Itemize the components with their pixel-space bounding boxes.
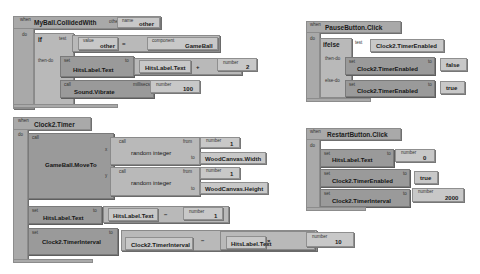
clocktimer-do-bar: do [13, 130, 28, 260]
number-value: 10 [335, 239, 342, 245]
getter-text: HitsLabel.Text [145, 65, 186, 71]
number-label: number [206, 138, 221, 143]
set-target: HitsLabel.Text [73, 67, 114, 73]
restartclick-event-block[interactable]: when RestartButton.Click [306, 128, 401, 140]
value-label: value [83, 38, 94, 43]
to-label: to [403, 191, 407, 196]
pauseclick-footer [306, 98, 371, 102]
number-1-block[interactable]: number 1 [183, 207, 223, 220]
timerinterval-getter-block[interactable]: Clock2.TimerInterval [125, 237, 193, 250]
set-timerinterval-block[interactable]: set Clock2.TimerInterval to [28, 228, 118, 255]
y-label: y [105, 173, 107, 178]
y-from-number-block[interactable]: number 1 [200, 167, 240, 179]
true-block[interactable]: true [414, 171, 438, 184]
value-other-block[interactable]: value other [78, 37, 118, 50]
pauseclick-do-bar: do [306, 33, 320, 101]
number-value: 1 [214, 213, 217, 219]
x-from-number-block[interactable]: number 1 [200, 137, 240, 148]
set-target: HitsLabel.Text [332, 157, 373, 163]
name-label: name [122, 18, 133, 23]
set-target: Clock2.TimerInterval [332, 198, 391, 204]
subtract-operator: − [201, 238, 205, 244]
equals-operator: = [122, 41, 126, 47]
call-vibrate-block[interactable]: call Sound.Vibrate millisecs [60, 80, 154, 98]
number-label: number [189, 209, 204, 214]
param-name-value: other [139, 21, 154, 27]
getter-text: Clock2.TimerInterval [131, 242, 190, 248]
random-integer-y-block[interactable]: call random integer from to [110, 167, 200, 196]
number-value: 100 [183, 86, 193, 92]
when-label: when [310, 129, 321, 134]
component-gameball-block[interactable]: component GameBall [147, 37, 218, 50]
from-label: from [183, 139, 192, 144]
from-label: from [183, 169, 192, 174]
to-label: to [93, 208, 97, 213]
hitslabel-getter-block[interactable]: HitsLabel.Text [139, 60, 191, 73]
to-label: to [191, 155, 195, 160]
set-hitslabel-block[interactable]: set HitsLabel.Text to [60, 56, 134, 77]
test-value: Clock2.TimerEnabled [376, 43, 437, 49]
random-integer-x-block[interactable]: call random integer from to [110, 137, 200, 165]
to-label: to [125, 58, 129, 63]
number-10-block[interactable]: number 10 [306, 232, 354, 247]
value-name: other [100, 43, 115, 49]
random-label: random integer [131, 150, 171, 156]
pauseclick-event-block[interactable]: when PauseButton.Click [306, 21, 401, 33]
getter-text: HitsLabel.Text [113, 213, 154, 219]
number-2000-block[interactable]: number 2000 [412, 188, 464, 202]
number-2-block[interactable]: number 2 [217, 58, 257, 71]
component-label: component [152, 38, 174, 43]
number-label: number [223, 60, 238, 65]
false-block[interactable]: false [440, 58, 467, 71]
clocktimer-event-block[interactable]: when Clock2.Timer [13, 117, 91, 130]
param-name-block[interactable]: name other [117, 17, 160, 28]
number-value: 2 [246, 64, 249, 70]
number-value: 2000 [445, 195, 458, 201]
number-100-block[interactable]: number 100 [150, 80, 200, 93]
then-set-block[interactable]: set Clock2.TimerEnabled to [345, 57, 435, 75]
call-name: GameBall.MoveTo [45, 162, 97, 168]
hitslabel-getter-block[interactable]: HitsLabel.Text [108, 208, 158, 221]
set-timerinterval-2000-block[interactable]: set Clock2.TimerInterval to [320, 189, 410, 207]
set-hitslabel-zero-block[interactable]: set HitsLabel.Text to [320, 149, 394, 167]
hitslabel-getter-block[interactable]: HitsLabel.Text [226, 236, 266, 249]
set-label: set [32, 208, 38, 213]
subtract-operator: − [164, 212, 168, 218]
then-do-label: then-do [38, 58, 53, 63]
set-timerenabled-true-block[interactable]: set Clock2.TimerEnabled to [320, 169, 410, 187]
to-label: to [428, 59, 432, 64]
event-title: Clock2.Timer [34, 121, 75, 128]
call-label: call [64, 82, 71, 87]
true-block[interactable]: true [440, 81, 465, 94]
else-set-block[interactable]: set Clock2.TimerEnabled to [345, 80, 435, 97]
set-hitslabel-minus-block[interactable]: set HitsLabel.Text to [28, 206, 102, 224]
to-label: to [109, 230, 113, 235]
add-operator: + [196, 64, 200, 70]
set-target: Clock2.TimerEnabled [357, 66, 418, 72]
test-timerenabled-block[interactable]: Clock2.TimerEnabled [370, 39, 444, 52]
call-moveto-block[interactable]: call GameBall.MoveTo x y [28, 133, 114, 199]
set-label: set [349, 82, 355, 87]
when-label: when [18, 118, 29, 123]
woodcanvas-width-block[interactable]: WoodCanvas.Width [200, 152, 266, 164]
number-value: 1 [230, 141, 233, 147]
restartclick-do-bar: do [306, 140, 320, 209]
do-label: do [18, 132, 23, 137]
call-label: call [32, 135, 39, 140]
number-0-block[interactable]: number 0 [395, 149, 435, 162]
true-value: true [446, 85, 457, 91]
else-do-label: else-do [325, 78, 340, 83]
getter-text: WoodCanvas.Height [205, 186, 263, 192]
clocktimer-footer [13, 259, 93, 263]
when-label: when [20, 17, 31, 22]
do-label: do [22, 32, 27, 37]
set-label: set [324, 191, 330, 196]
collidedwith-footer [13, 104, 118, 108]
if-label: if [38, 36, 42, 43]
woodcanvas-height-block[interactable]: WoodCanvas.Height [200, 182, 268, 194]
true-value: true [420, 175, 431, 181]
set-label: set [349, 59, 355, 64]
collidedwith-do-bar: do [13, 29, 34, 109]
number-label: number [418, 189, 433, 194]
set-target: Clock2.TimerEnabled [332, 178, 393, 184]
